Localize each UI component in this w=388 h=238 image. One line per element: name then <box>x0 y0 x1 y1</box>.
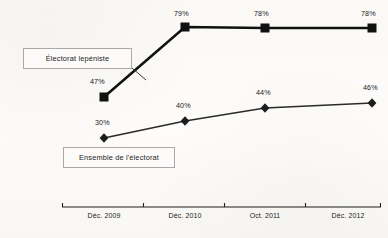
x-tick-label-1: Déc. 2010 <box>161 212 209 219</box>
x-axis <box>62 203 381 207</box>
series-ensemble-marker-2 <box>261 103 270 113</box>
legend-box-ensemble: Ensemble de l'électorat <box>63 147 175 168</box>
chart-plot-area <box>0 0 388 238</box>
series-ensemble-marker-0 <box>100 133 109 143</box>
data-label-lepeniste-0: 47% <box>90 77 105 86</box>
x-tick-label-3: Déc. 2012 <box>324 212 372 219</box>
legend-leader-line <box>132 68 146 80</box>
data-label-lepeniste-1: 79% <box>174 9 189 18</box>
x-tick-label-2: Oct. 2011 <box>241 212 289 219</box>
series-ensemble-marker-3 <box>368 98 377 108</box>
data-label-ensemble-2: 44% <box>256 88 271 97</box>
data-label-ensemble-0: 30% <box>95 118 110 127</box>
series-ensemble <box>100 98 377 143</box>
series-ensemble-marker-1 <box>181 116 190 126</box>
series-lepeniste-line <box>104 27 372 97</box>
series-lepeniste-marker-1 <box>181 23 190 32</box>
chart-container: 47% 79% 78% 78% 30% 40% 44% 46% Électora… <box>0 0 388 238</box>
data-label-ensemble-3: 46% <box>363 83 378 92</box>
series-ensemble-line <box>104 103 372 138</box>
series-lepeniste-marker-3 <box>368 24 377 33</box>
data-label-lepeniste-3: 78% <box>361 9 376 18</box>
data-label-ensemble-1: 40% <box>176 101 191 110</box>
series-lepeniste <box>100 23 377 102</box>
series-lepeniste-marker-2 <box>261 24 270 33</box>
legend-box-lepeniste: Électorat lepéniste <box>23 48 132 69</box>
series-lepeniste-marker-0 <box>100 93 109 102</box>
data-label-lepeniste-2: 78% <box>254 9 269 18</box>
x-tick-label-0: Déc. 2009 <box>80 212 128 219</box>
